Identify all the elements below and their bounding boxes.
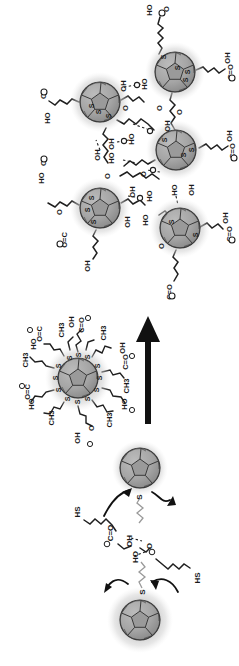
hydroxyl-label: OH <box>73 432 82 443</box>
thiol-label: HS <box>73 506 82 518</box>
methyl-label: CH3 <box>57 322 66 337</box>
sulfur-label: S <box>180 152 187 157</box>
sulfur-label: S <box>84 396 91 401</box>
sulfur-label: S <box>160 54 167 59</box>
sulfur-label: S <box>174 65 181 70</box>
hydroxyl-label: HO <box>131 551 140 563</box>
methyl-label: CH3 <box>105 412 114 427</box>
hydroxyl-label: HO <box>140 78 149 89</box>
hydroxyl-label: HO <box>43 112 52 123</box>
sulfur-label: S <box>84 207 91 212</box>
oxygen-label: O <box>139 171 148 177</box>
oxygen-label: O <box>155 105 164 111</box>
sulfur-label: S <box>52 375 59 380</box>
hydroxyl-label: HO <box>107 152 116 163</box>
sulfur-label: S <box>88 195 95 200</box>
sulfur-label: S <box>93 387 100 392</box>
fullerene-particle <box>70 178 130 238</box>
carbonyl-label: C=O <box>77 317 86 333</box>
sulfur-label: S <box>84 354 91 359</box>
oxygen-label: O <box>175 109 184 115</box>
hydroxyl-label: OH <box>83 260 92 271</box>
hydroxyl-label: OH <box>223 52 232 63</box>
sulfur-label: S <box>188 147 195 152</box>
sulfur-label: S <box>94 363 101 368</box>
sulfur-label: S <box>184 69 191 74</box>
methyl-label: CH3 <box>99 325 108 340</box>
hydroxyl-label: HO <box>141 214 150 225</box>
fullerene-particle <box>120 448 160 488</box>
hydroxyl-label: OH <box>221 212 230 223</box>
sulfur-label: S <box>66 355 73 360</box>
hydroxyl-label: OH <box>225 130 234 141</box>
oxygen-label: OH <box>163 120 172 131</box>
hydroxyl-label: HO <box>37 172 46 183</box>
figure-canvas: S S S S S S S S S S S S S S S HO O OH <box>0 0 239 666</box>
fullerene-particle <box>145 42 205 102</box>
hydroxyl-label: OH <box>128 186 137 197</box>
sulfur-label: S <box>182 77 189 82</box>
hydroxyl-label: HO <box>145 4 154 15</box>
oxygen-label: O <box>121 105 130 111</box>
hydroxyl-label: OH <box>187 184 196 195</box>
sulfur-label: S <box>96 375 103 380</box>
sulfur-label: S <box>192 232 199 237</box>
hydroxyl-label: OH <box>93 149 102 160</box>
sulfur-label: S <box>168 219 175 224</box>
thiol-label: HS <box>193 572 202 584</box>
hydroxyl-label: OH <box>125 535 134 547</box>
sulfur-label: S <box>138 589 147 595</box>
hydroxyl-label: OH <box>107 138 116 149</box>
oxygen-label: O <box>103 173 112 179</box>
oxygen-label: O <box>87 425 96 431</box>
sulfur-label: S <box>88 103 95 108</box>
hydroxyl-label: HO <box>145 190 154 201</box>
sulfur-label: S <box>135 494 144 500</box>
hydroxyl-label: HO <box>127 133 136 144</box>
carbonyl-label: O=C <box>35 326 44 342</box>
sulfur-label: S <box>90 219 97 224</box>
hydroxyl-label: HO <box>170 184 179 195</box>
sulfur-label: S <box>55 387 62 392</box>
hydroxyl-label: OH <box>123 216 132 227</box>
methyl-label: CH3 <box>47 410 56 425</box>
hydroxyl-label: OH <box>67 316 76 327</box>
fullerene-particle <box>120 600 160 640</box>
hydroxyl-label: OH <box>118 342 127 353</box>
fullerene-assembly-figure: S S S S S S S S S S S S S S S HO O OH <box>0 0 239 666</box>
oxygen-label: O <box>55 209 64 215</box>
oxygen-label: O <box>157 243 166 249</box>
methyl-label: CH3 <box>21 352 30 367</box>
sulfur-label: S <box>75 352 82 357</box>
hydroxyl-label: OH <box>119 80 128 91</box>
sulfur-label: S <box>105 113 112 118</box>
sulfur-label: S <box>64 396 71 401</box>
sulfur-label: S <box>161 137 168 142</box>
hydroxyl-label: HO <box>120 398 129 409</box>
sulfur-label: S <box>95 109 102 114</box>
sulfur-label: S <box>55 363 62 368</box>
methyl-label: CH3 <box>122 378 131 393</box>
sulfur-label: S <box>74 399 81 404</box>
carbonyl-label: C=O <box>121 354 130 370</box>
carbonyl-label: C=O <box>106 525 115 542</box>
oxygen-label: O <box>145 543 154 549</box>
